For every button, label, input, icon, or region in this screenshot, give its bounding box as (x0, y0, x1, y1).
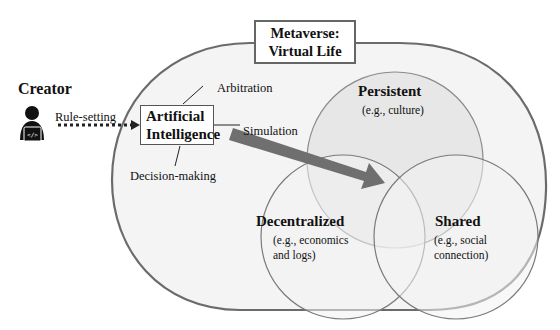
decision-making-label: Decision-making (130, 169, 216, 184)
decentralized-example: (e.g., economics and logs) (273, 233, 363, 263)
shared-example: (e.g., social connection) (434, 233, 504, 263)
ai-box-line2: Intelligence (146, 125, 213, 143)
metaverse-title-box: Metaverse: Virtual Life (254, 20, 356, 64)
creator-label: Creator (18, 80, 72, 98)
shared-label: Shared (435, 213, 481, 230)
artificial-intelligence-box: Artificial Intelligence (140, 105, 214, 145)
title-line2: Virtual Life (256, 42, 354, 60)
title-line1: Metaverse: (256, 24, 354, 42)
svg-text:</>: </> (27, 131, 38, 138)
decentralized-label: Decentralized (256, 213, 344, 230)
rule-setting-label: Rule-setting (55, 110, 116, 125)
arbitration-label: Arbitration (217, 81, 273, 96)
ai-box-line1: Artificial (146, 107, 213, 125)
creator-icon: </> (20, 106, 44, 141)
persistent-example: (e.g., culture) (362, 104, 424, 116)
persistent-label: Persistent (358, 83, 421, 100)
simulation-label: Simulation (243, 124, 298, 139)
